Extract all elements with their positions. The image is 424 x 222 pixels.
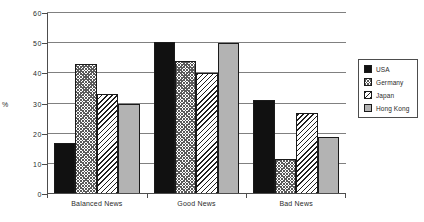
bar	[196, 73, 217, 194]
legend-label: Hong Kong	[376, 105, 409, 112]
y-tick-label: 20	[33, 130, 42, 137]
bar	[75, 64, 96, 194]
bars-layer	[47, 13, 346, 194]
bar	[296, 113, 317, 194]
x-axis-ticks	[47, 194, 346, 199]
bar	[54, 143, 75, 194]
x-tick-mark	[345, 194, 346, 198]
legend-swatch-icon	[364, 78, 372, 86]
bar	[154, 42, 175, 194]
y-tick-label: 50	[33, 40, 42, 47]
y-tick-label: 60	[33, 10, 42, 17]
bar-group	[147, 13, 247, 194]
x-axis-category-label: Good News	[177, 200, 215, 207]
y-axis-title: %	[2, 100, 8, 107]
legend: USAGermanyJapanHong Kong	[358, 59, 418, 118]
bar-chart: 0102030405060 % Balanced NewsGood NewsBa…	[0, 0, 424, 222]
bar	[218, 43, 239, 194]
legend-item[interactable]: Germany	[364, 78, 413, 86]
x-axis-labels: Balanced NewsGood NewsBad News	[47, 200, 346, 216]
bar-group	[246, 13, 346, 194]
x-axis-category-label: Balanced News	[71, 200, 122, 207]
bar	[318, 137, 339, 194]
bar-group	[47, 13, 147, 194]
legend-swatch-icon	[364, 65, 372, 73]
bar	[118, 104, 139, 195]
bar	[175, 61, 196, 194]
bar	[97, 94, 118, 194]
x-axis-category-label: Bad News	[279, 200, 313, 207]
y-axis-line	[47, 13, 48, 194]
bar	[275, 159, 296, 194]
legend-label: Japan	[376, 92, 394, 99]
legend-label: Germany	[376, 79, 403, 86]
legend-swatch-icon	[364, 104, 372, 112]
legend-swatch-icon	[364, 91, 372, 99]
y-axis: 0102030405060 %	[0, 13, 42, 194]
y-tick-label: 40	[33, 70, 42, 77]
legend-item[interactable]: Hong Kong	[364, 104, 413, 112]
legend-item[interactable]: Japan	[364, 91, 413, 99]
plot-area	[47, 13, 346, 194]
bar	[253, 100, 274, 194]
legend-item[interactable]: USA	[364, 65, 413, 73]
legend-label: USA	[376, 66, 390, 73]
x-tick-mark	[47, 194, 48, 198]
x-tick-mark	[147, 194, 148, 198]
y-tick-label: 30	[33, 100, 42, 107]
x-tick-mark	[246, 194, 247, 198]
y-tick-label: 10	[33, 160, 42, 167]
